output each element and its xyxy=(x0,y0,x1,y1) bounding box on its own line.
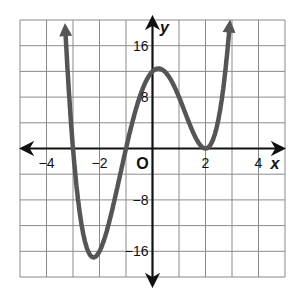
x-tick-label: 4 xyxy=(255,155,263,171)
y-axis-label: y xyxy=(159,19,170,36)
axes xyxy=(22,18,283,285)
x-axis-label: x xyxy=(270,155,281,172)
polynomial-graph: −4−224168−8−16xyO xyxy=(0,0,294,290)
y-tick-label: −16 xyxy=(125,243,149,259)
x-tick-label: −2 xyxy=(92,155,108,171)
curve-arrow-icon xyxy=(59,23,72,36)
y-tick-label: −8 xyxy=(133,192,149,208)
origin-label: O xyxy=(136,155,148,172)
tick-labels: −4−224168−8−16xyO xyxy=(39,19,281,259)
x-tick-label: 2 xyxy=(202,155,210,171)
function-curve xyxy=(65,26,229,258)
y-tick-label: 8 xyxy=(141,89,149,105)
y-tick-label: 16 xyxy=(133,38,149,54)
x-tick-label: −4 xyxy=(39,155,55,171)
curve-arrow-icon xyxy=(223,20,236,34)
